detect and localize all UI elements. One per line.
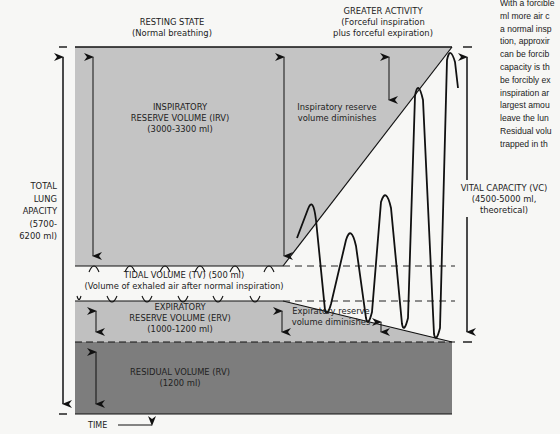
irv-region (75, 47, 452, 266)
activity-line1: (Forceful inspiration (318, 17, 448, 28)
tv-label: TIDAL VOLUME (TV) (500 ml) (Volume of ex… (68, 270, 300, 292)
vital-capacity-label: VITAL CAPACITY (VC) (4500-5000 ml, theor… (448, 183, 560, 216)
erv-label: EXPIRATORY RESERVE VOLUME (ERV) (1000-12… (110, 291, 250, 335)
rv-label: RESIDUAL VOLUME (RV) (1200 ml) (110, 367, 250, 389)
erv-diminishes-label: Expiratory reserve volume diminishes (281, 306, 381, 328)
time-axis-label: TIME (88, 420, 107, 431)
side-text-column: With a forcible ml more air c a normal i… (500, 0, 560, 151)
resting-title: RESTING STATE (112, 17, 232, 28)
resting-subtitle: (Normal breathing) (112, 28, 232, 39)
total-lung-capacity-label: TOTAL LUNG APACITY (5700- 6200 ml) (0, 180, 57, 243)
lung-volume-diagram (0, 0, 560, 434)
activity-header: GREATER ACTIVITY (Forceful inspiration p… (318, 6, 448, 39)
resting-state-header: RESTING STATE (Normal breathing) (112, 17, 232, 39)
activity-title: GREATER ACTIVITY (318, 6, 448, 17)
irv-diminishes-label: Inspiratory reserve volume diminishes (287, 102, 387, 124)
activity-line2: plus forceful expiration) (318, 28, 448, 39)
irv-label: INSPIRATORY RESERVE VOLUME (IRV) (3000-3… (110, 102, 250, 135)
